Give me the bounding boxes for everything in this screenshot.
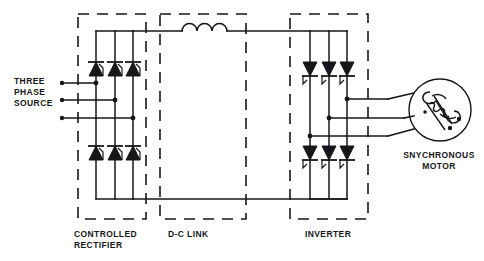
- circuit-diagram-figure: .wire { stroke:#17171a; stroke-width:1.5…: [0, 0, 484, 261]
- motor-label-line-1: SNYCHRONOUS: [398, 150, 480, 161]
- inverter-label-line-1: INVERTER: [305, 229, 351, 240]
- thyristor-rectifier-upper-1: [88, 62, 104, 76]
- motor-phase-leads: [308, 93, 414, 138]
- controlled-rectifier-label: CONTROLLED RECTIFIER: [74, 229, 137, 251]
- source-label-line-1: THREE: [14, 76, 53, 87]
- inverter-label: INVERTER: [305, 229, 351, 240]
- source-label-line-3: SOURCE: [14, 98, 53, 109]
- dc-link-label: D-C LINK: [168, 229, 209, 240]
- motor-label-line-2: MOTOR: [398, 161, 480, 172]
- controlled-rectifier-label-line-1: CONTROLLED: [74, 229, 137, 240]
- synchronous-motor-symbol: [409, 79, 471, 141]
- block-outline-dc-link: [160, 14, 246, 219]
- synchronous-motor-label: SNYCHRONOUS MOTOR: [398, 150, 480, 172]
- rectifier-bridge: [96, 31, 133, 199]
- three-phase-source-label: THREE PHASE SOURCE: [14, 76, 53, 109]
- three-phase-source-leads: [60, 81, 136, 121]
- thyristor-rectifier-lower-1: [88, 146, 104, 160]
- source-label-line-2: PHASE: [14, 87, 53, 98]
- controlled-rectifier-label-line-2: RECTIFIER: [74, 240, 137, 251]
- circuit-schematic-canvas: .wire { stroke:#17171a; stroke-width:1.5…: [0, 0, 484, 261]
- block-outline-controlled-rectifier: [78, 14, 146, 219]
- thyristor-rectifier-lower-3: [125, 146, 141, 160]
- dc-link-inductor-icon: [182, 24, 227, 31]
- inverter-bridge: [310, 31, 347, 199]
- dc-link-label-line-1: D-C LINK: [168, 229, 209, 240]
- thyristor-rectifier-upper-3: [125, 62, 141, 76]
- thyristor-rectifier-upper-2: [107, 62, 123, 76]
- thyristor-rectifier-lower-2: [107, 146, 123, 160]
